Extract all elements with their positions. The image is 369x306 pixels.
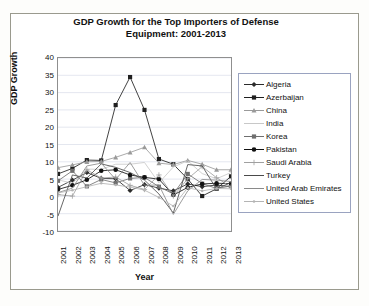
legend-item[interactable]: United Arab Emirates	[243, 182, 347, 195]
x-tick-label: 2008	[162, 246, 170, 264]
y-tick-label: 35	[27, 71, 54, 80]
legend-item[interactable]: United States	[243, 195, 347, 208]
legend-item[interactable]: Azerbaijan	[243, 91, 347, 104]
x-tick-label: 2007	[148, 246, 156, 264]
legend-swatch-circle-icon	[243, 144, 265, 155]
legend-item-label: Pakistan	[266, 145, 297, 154]
y-tick-label: 30	[27, 88, 54, 97]
y-tick-label: 20	[27, 123, 54, 132]
legend-item[interactable]: Turkey	[243, 169, 347, 182]
y-tick-label: -10	[27, 228, 54, 237]
x-axis-tick-labels: 2001200220032004200520062007200820092010…	[57, 234, 232, 268]
plot-area	[57, 57, 232, 232]
legend-item-label: Saudi Arabia	[266, 158, 311, 167]
x-tick-label: 2005	[118, 246, 126, 264]
legend-item-label: China	[266, 106, 287, 115]
x-tick-label: 2004	[104, 246, 112, 264]
legend-swatch-none-icon	[243, 118, 265, 129]
legend-item-label: Algeria	[266, 80, 291, 89]
x-tick-label: 2011	[206, 247, 214, 264]
legend-swatch-triangle-icon	[243, 105, 265, 116]
figure-page: GDP Growth for the Top Importers of Defe…	[0, 0, 369, 306]
x-tick-label: 2009	[177, 246, 185, 264]
chart-title: GDP Growth for the Top Importers of Defe…	[28, 16, 324, 40]
x-tick-label: 2002	[75, 246, 83, 264]
x-tick-label: 2010	[191, 246, 199, 264]
y-axis-title: GDP Growth	[9, 52, 19, 105]
legend-swatch-none-icon	[243, 183, 265, 194]
x-tick-label: 2001	[60, 246, 68, 264]
y-tick-label: -5	[27, 211, 54, 220]
x-tick-label: 2003	[89, 246, 97, 264]
legend-item[interactable]: Algeria	[243, 78, 347, 91]
x-tick-label: 2006	[133, 246, 141, 264]
legend-swatch-plus-icon	[243, 157, 265, 168]
legend-item[interactable]: China	[243, 104, 347, 117]
y-tick-label: 25	[27, 106, 54, 115]
legend-item[interactable]: India	[243, 117, 347, 130]
y-tick-label: 5	[27, 176, 54, 185]
legend-item[interactable]: Saudi Arabia	[243, 156, 347, 169]
y-tick-label: 0	[27, 193, 54, 202]
legend-swatch-diamond-icon	[243, 79, 265, 90]
series-lines	[58, 58, 231, 231]
y-tick-label: 40	[27, 53, 54, 62]
chart-title-line-1: GDP Growth for the Top Importers of Defe…	[28, 16, 324, 28]
legend-item[interactable]: Korea	[243, 130, 347, 143]
legend-swatch-square-icon	[243, 92, 265, 103]
legend-item-label: India	[266, 119, 283, 128]
legend-swatch-square-icon	[243, 131, 265, 142]
legend-item-label: Azerbaijan	[266, 93, 304, 102]
y-tick-label: 15	[27, 141, 54, 150]
legend-item-label: Turkey	[266, 171, 290, 180]
legend-item[interactable]: Pakistan	[243, 143, 347, 156]
x-tick-label: 2012	[220, 246, 228, 264]
legend-item-label: United States	[266, 197, 314, 206]
legend-swatch-none-icon	[243, 170, 265, 181]
y-tick-label: 10	[27, 158, 54, 167]
chart-title-line-2: Equipment: 2001-2013	[28, 28, 324, 40]
x-tick-label: 2013	[235, 246, 243, 264]
x-axis-title: Year	[57, 272, 232, 282]
legend-item-label: United Arab Emirates	[266, 184, 342, 193]
legend-swatch-dot-icon	[243, 196, 265, 207]
legend-item-label: Korea	[266, 132, 287, 141]
y-axis-tick-labels: 4035302520151050-5-10	[27, 52, 54, 237]
chart-legend: AlgeriaAzerbaijanChinaIndiaKoreaPakistan…	[238, 73, 351, 213]
